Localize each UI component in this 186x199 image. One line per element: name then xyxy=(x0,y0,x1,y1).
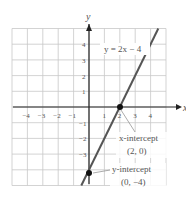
axes xyxy=(13,24,182,184)
y-intercept-coords: (0, −4) xyxy=(121,177,146,187)
x-axis-label: x xyxy=(182,102,186,113)
x-axis-arrow-icon xyxy=(176,104,182,110)
x-tick-label: −4 xyxy=(22,112,30,120)
y-tick-label: −1 xyxy=(79,120,87,128)
y-tick-label: 2 xyxy=(82,73,86,81)
x-tick-label: 4 xyxy=(149,112,153,120)
y-tick-label: −2 xyxy=(79,135,87,143)
x-intercept-coords: (2, 0) xyxy=(127,146,147,156)
x-tick-label: −2 xyxy=(53,112,61,120)
y-axis-label: y xyxy=(85,11,91,22)
x-intercept-point xyxy=(117,104,123,110)
graph: x y −4−3−2−112344321−1−2−3 y = 2x − 4 x-… xyxy=(0,0,186,199)
equation-label: y = 2x − 4 xyxy=(104,44,142,54)
y-tick-label: −3 xyxy=(79,151,87,159)
x-tick-label: −3 xyxy=(38,112,46,120)
y-tick-label: 1 xyxy=(82,88,86,96)
y-intercept-leader xyxy=(93,170,110,173)
x-intercept-label: x-intercept xyxy=(119,133,158,143)
y-tick-label: 3 xyxy=(82,57,86,65)
x-tick-label: 2 xyxy=(118,112,122,120)
y-intercept-point xyxy=(86,170,92,176)
x-tick-label: −1 xyxy=(69,112,77,120)
y-axis-arrow-icon xyxy=(86,24,92,31)
x-tick-label: 3 xyxy=(133,112,137,120)
x-tick-label: 1 xyxy=(102,112,106,120)
y-tick-label: 4 xyxy=(82,41,86,49)
y-intercept-label: y-intercept xyxy=(112,164,151,174)
